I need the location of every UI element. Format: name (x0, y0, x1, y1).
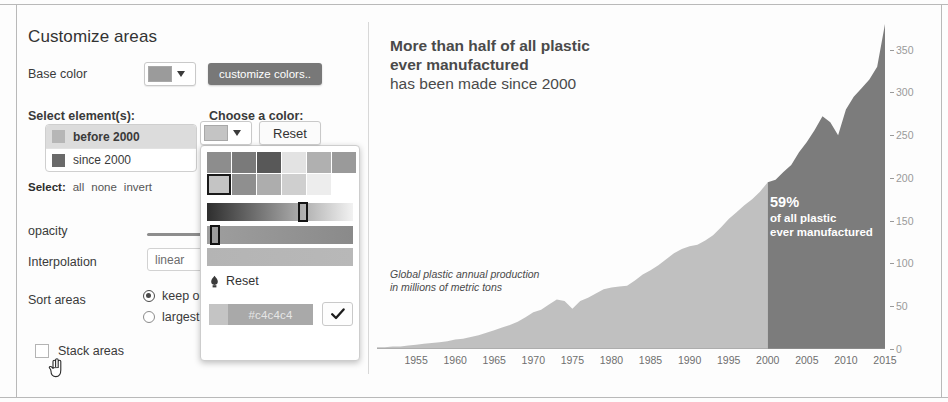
sort-areas-label: Sort areas (28, 293, 86, 307)
gradient-strip-1[interactable] (207, 226, 353, 244)
stack-areas-label: Stack areas (58, 344, 124, 358)
element-color-swatch (52, 130, 65, 143)
color-swatch[interactable] (307, 152, 331, 173)
app-window: Customize areas Base color customize col… (0, 0, 948, 402)
y-axis-tick-mark (890, 263, 894, 264)
y-axis-tick-label: 200 (896, 172, 914, 184)
x-axis-tick-label: 2005 (795, 354, 818, 366)
annotation-line-1: of all plastic (770, 211, 873, 225)
color-swatch[interactable] (307, 174, 331, 195)
color-swatch[interactable] (207, 152, 231, 173)
radio-icon (143, 290, 155, 302)
hex-color-field[interactable]: #c4c4c4 (209, 304, 313, 325)
y-axis-tick-label: 250 (896, 129, 914, 141)
y-axis-tick-mark (890, 92, 894, 93)
color-swatch[interactable] (332, 174, 356, 195)
picker-reset-row[interactable]: Reset (209, 274, 259, 288)
chart-y-axis: 050100150200250300350 (890, 24, 930, 360)
interpolation-label: Interpolation (28, 255, 97, 269)
y-axis-tick-mark (890, 349, 894, 350)
gradient-strip-marker[interactable] (298, 202, 308, 222)
select-elements-label: Select element(s): (28, 109, 135, 123)
color-swatch[interactable] (232, 174, 256, 195)
hex-color-value: #c4c4c4 (228, 309, 313, 321)
x-axis-tick-label: 1970 (522, 354, 545, 366)
chart-annotation: 59% of all plastic ever manufactured (770, 195, 873, 239)
x-axis-tick-label: 1975 (561, 354, 584, 366)
select-actions-row: Select:allnoneinvert (28, 181, 152, 193)
list-item-label: before 2000 (73, 130, 140, 144)
y-axis-tick-mark (890, 306, 894, 307)
color-swatch-grid[interactable] (207, 152, 356, 195)
y-axis-tick-label: 350 (896, 44, 914, 56)
window-frame-bottom-border (0, 397, 948, 398)
y-axis-tick-mark (890, 50, 894, 51)
chart-plot-area (377, 24, 885, 349)
area-since-2000 (768, 24, 885, 349)
area-chart-svg (377, 24, 885, 349)
select-actions-label: Select: (28, 181, 66, 193)
list-item[interactable]: before 2000 (46, 125, 196, 148)
base-color-row: Base color customize colors.. (28, 61, 358, 87)
color-swatch[interactable] (257, 152, 281, 173)
gradient-strip-2[interactable] (207, 248, 353, 266)
gradient-strip-marker[interactable] (210, 225, 220, 245)
x-axis-tick-label: 1990 (678, 354, 701, 366)
stack-areas-row[interactable]: Stack areas (35, 344, 124, 358)
y-axis-tick-label: 150 (896, 215, 914, 227)
element-color-swatch (52, 154, 65, 167)
y-axis-tick-mark (890, 135, 894, 136)
page-title: Customize areas (28, 27, 157, 47)
color-swatch[interactable] (232, 152, 256, 173)
hand-pointer-cursor-icon (48, 357, 65, 378)
y-axis-tick-label: 100 (896, 257, 914, 269)
x-axis-tick-label: 1995 (717, 354, 740, 366)
picker-current-color-swatch (204, 125, 228, 141)
opacity-label: opacity (28, 224, 68, 238)
color-picker-popup: Reset #c4c4c4 (200, 145, 360, 361)
stack-areas-checkbox[interactable] (35, 344, 49, 358)
reset-brush-icon (209, 275, 220, 288)
base-color-swatch-button[interactable] (144, 62, 196, 86)
list-item[interactable]: since 2000 (46, 148, 196, 171)
color-swatch[interactable] (282, 174, 306, 195)
check-icon (331, 308, 345, 320)
color-swatch[interactable] (207, 174, 231, 195)
select-all-link[interactable]: all (73, 181, 85, 193)
chevron-down-icon (177, 71, 185, 77)
y-axis-tick-label: 0 (896, 343, 902, 355)
confirm-color-button[interactable] (322, 302, 353, 326)
base-color-label: Base color (28, 67, 87, 81)
reset-button[interactable]: Reset (259, 121, 321, 145)
x-axis-tick-label: 1955 (404, 354, 427, 366)
chart-x-axis: 1955196019651970197519801985199019952000… (377, 354, 885, 370)
picker-color-swatch-button[interactable] (200, 121, 252, 145)
select-none-link[interactable]: none (91, 181, 117, 193)
area-before-2000 (377, 182, 768, 349)
element-list[interactable]: before 2000 since 2000 (45, 124, 197, 172)
base-color-swatch (148, 66, 172, 82)
x-axis-tick-label: 1960 (443, 354, 466, 366)
x-axis-tick-label: 1965 (483, 354, 506, 366)
panel-divider (368, 22, 369, 374)
y-axis-tick-mark (890, 221, 894, 222)
customize-colors-button[interactable]: customize colors.. (208, 63, 322, 85)
x-axis-tick-label: 1980 (600, 354, 623, 366)
gradient-strip-0[interactable] (207, 203, 353, 221)
annotation-line-2: ever manufactured (770, 225, 873, 239)
hex-color-preview (209, 304, 228, 325)
list-item-label: since 2000 (73, 153, 131, 167)
radio-icon (143, 311, 155, 323)
x-axis-tick-label: 2000 (756, 354, 779, 366)
y-axis-tick-label: 50 (896, 300, 908, 312)
color-swatch[interactable] (282, 152, 306, 173)
x-axis-tick-label: 1985 (639, 354, 662, 366)
color-swatch[interactable] (332, 152, 356, 173)
chart-panel: More than half of all plastic ever manuf… (372, 6, 942, 396)
x-axis-tick-label: 2010 (834, 354, 857, 366)
select-invert-link[interactable]: invert (124, 181, 152, 193)
color-swatch[interactable] (257, 174, 281, 195)
annotation-percent: 59% (770, 195, 873, 209)
picker-reset-label: Reset (226, 274, 259, 288)
y-axis-tick-label: 300 (896, 86, 914, 98)
